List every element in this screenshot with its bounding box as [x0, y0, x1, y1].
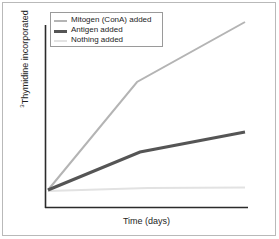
- legend-swatch-nothing: [54, 35, 67, 45]
- legend-label-nothing: Nothing added: [71, 35, 123, 45]
- series-line-mitogen: [48, 22, 245, 190]
- y-axis-title: 3Thymidine incorporated: [20, 10, 30, 107]
- chart-legend: Mitogen (ConA) added Antigen added Nothi…: [50, 12, 163, 47]
- y-axis-title-text: Thymidine incorporated: [20, 10, 30, 104]
- legend-swatch-antigen: [54, 25, 67, 35]
- series-line-antigen: [48, 132, 245, 190]
- legend-label-mitogen: Mitogen (ConA) added: [71, 15, 152, 25]
- legend-swatch-mitogen: [54, 15, 67, 25]
- chart-figure: Mitogen (ConA) added Antigen added Nothi…: [0, 0, 279, 239]
- x-axis-title: Time (days): [45, 216, 248, 226]
- y-axis-title-wrap: 3Thymidine incorporated: [14, 0, 28, 124]
- legend-item-nothing: Nothing added: [54, 35, 159, 45]
- legend-item-mitogen: Mitogen (ConA) added: [54, 15, 159, 25]
- legend-label-antigen: Antigen added: [71, 25, 123, 35]
- legend-item-antigen: Antigen added: [54, 25, 159, 35]
- y-axis-title-superscript: 3: [19, 104, 25, 107]
- series-line-nothing-added: [48, 188, 245, 192]
